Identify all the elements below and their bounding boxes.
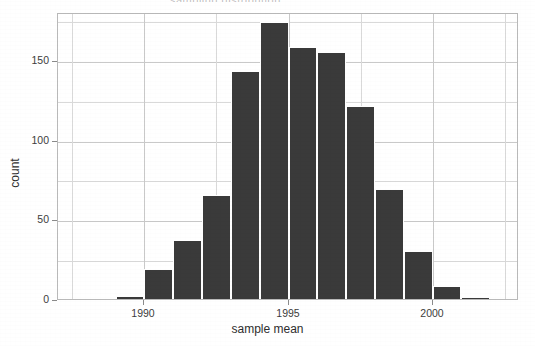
y-axis-tick — [52, 61, 57, 62]
histogram-bar — [375, 189, 404, 299]
histogram-bar — [433, 286, 462, 299]
y-axis-title-label: count — [8, 158, 22, 187]
y-axis-tick — [52, 300, 57, 301]
plot-panel — [57, 13, 518, 300]
x-axis-tick-label: 1995 — [276, 307, 299, 319]
histogram-bar — [461, 297, 490, 299]
histogram-bar — [116, 296, 145, 299]
x-axis-tick — [432, 300, 433, 305]
y-axis-tick — [52, 220, 57, 221]
y-axis-tick-label: 0 — [20, 293, 49, 305]
y-axis-tick-label: 100 — [20, 134, 49, 146]
histogram-bar — [173, 240, 202, 299]
histogram-bar — [202, 195, 231, 299]
histogram-bar — [260, 22, 289, 299]
y-axis-tick — [52, 141, 57, 142]
x-axis-tick — [143, 300, 144, 305]
bar-series — [58, 14, 517, 299]
y-axis-tick-label: 150 — [20, 54, 49, 66]
x-axis-title: sample mean — [0, 322, 535, 336]
histogram-bar — [317, 52, 346, 299]
x-axis-tick-label: 2000 — [420, 307, 443, 319]
histogram-bar — [289, 47, 318, 299]
y-axis-title: count — [6, 0, 24, 346]
x-axis-tick-label: 1990 — [131, 307, 154, 319]
histogram-bar — [346, 106, 375, 299]
x-axis-tick — [288, 300, 289, 305]
y-axis-tick-label: 50 — [20, 213, 49, 225]
histogram-figure: 050100150199019952000 count sample mean — [0, 0, 535, 346]
histogram-bar — [231, 71, 260, 299]
histogram-bar — [144, 269, 173, 299]
histogram-bar — [404, 251, 433, 299]
